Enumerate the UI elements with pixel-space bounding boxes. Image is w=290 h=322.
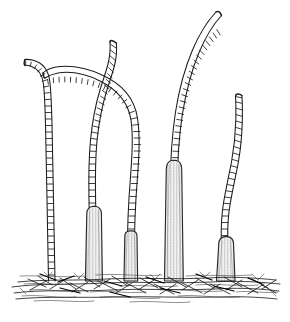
- specimen-3-basal-sheath: [124, 231, 138, 281]
- specimen-5-basal-sheath: [217, 237, 236, 281]
- figure-root: Stalked segmented organisms on substrate: [0, 0, 290, 322]
- illustration-canvas: [0, 0, 290, 322]
- canvas-background: [0, 0, 290, 322]
- specimen-2-basal-sheath: [85, 206, 102, 281]
- specimen-4-basal-sheath: [165, 160, 184, 281]
